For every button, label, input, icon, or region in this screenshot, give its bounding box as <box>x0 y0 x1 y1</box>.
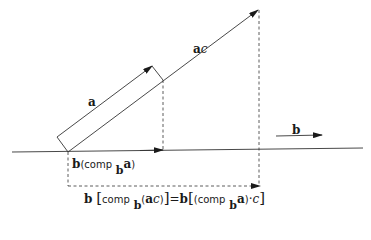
eq-c1: c <box>153 192 160 206</box>
eq-equals: = <box>170 192 180 206</box>
label-b: b <box>292 124 300 136</box>
eq-sub1: b <box>134 199 142 212</box>
proj-a-close: ) <box>131 159 135 170</box>
label-a: a <box>88 96 96 108</box>
projection-a-arrow <box>140 150 163 151</box>
rect-side-right <box>152 66 163 80</box>
proj-a-sub: b <box>116 164 124 177</box>
label-ac-scalar: c <box>201 42 208 56</box>
eq-a1: a <box>145 192 153 206</box>
eq-comp2: (comp <box>194 194 226 205</box>
eq-sub2: b <box>229 199 237 212</box>
label-ac: ac <box>193 43 208 55</box>
eq-rbr2: ] <box>259 189 265 207</box>
eq-a2: a <box>237 192 245 206</box>
label-projection-a: b(comp ba) <box>72 158 135 170</box>
baseline-b-line <box>12 148 363 152</box>
label-ac-vector: a <box>193 42 201 56</box>
eq-b2: b <box>180 192 188 206</box>
proj-a-comp: (comp <box>80 159 112 170</box>
eq-b1: b <box>84 192 92 206</box>
vector-a-arrow <box>57 66 152 137</box>
rect-side-left <box>57 137 68 152</box>
eq-comp1: comp <box>102 194 130 205</box>
label-projection-ac-equation: b [comp b(ac)]=b[(comp ba)·c] <box>84 191 265 206</box>
